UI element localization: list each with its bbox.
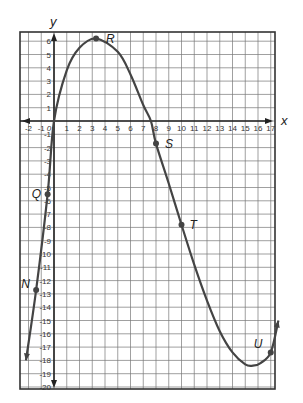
y-axis-arrow-up-icon bbox=[51, 33, 57, 41]
y-tick-label: -15 bbox=[39, 317, 51, 326]
y-tick-label: 6 bbox=[47, 37, 52, 46]
x-tick-label: 6 bbox=[128, 124, 133, 133]
x-tick-label: 17 bbox=[266, 124, 275, 133]
cubic-graph: -2-101234567891011121314151617654321-1-2… bbox=[0, 0, 303, 403]
x-tick-label: 7 bbox=[141, 124, 146, 133]
y-tick-label: 2 bbox=[47, 90, 52, 99]
point-label-u: U bbox=[254, 337, 263, 351]
y-tick-label: -14 bbox=[39, 303, 51, 312]
y-tick-label: -17 bbox=[39, 343, 51, 352]
x-tick-label: 9 bbox=[167, 124, 172, 133]
function-curve bbox=[26, 38, 278, 366]
x-tick-label: 8 bbox=[154, 124, 159, 133]
point-label-r: R bbox=[106, 32, 115, 46]
y-tick-label: -12 bbox=[39, 277, 51, 286]
x-tick-label: 1 bbox=[65, 124, 70, 133]
y-tick-label: -20 bbox=[39, 383, 51, 392]
y-tick-label: 4 bbox=[47, 64, 52, 73]
tick-labels: -2-101234567891011121314151617654321-1-2… bbox=[25, 37, 276, 392]
y-tick-label: -19 bbox=[39, 370, 51, 379]
point-n bbox=[33, 287, 39, 293]
y-tick-label: -9 bbox=[44, 237, 52, 246]
point-q bbox=[45, 191, 51, 197]
grid-lines bbox=[20, 32, 275, 389]
x-tick-label: 5 bbox=[116, 124, 121, 133]
plot-frame bbox=[20, 32, 275, 389]
x-tick-label: 3 bbox=[90, 124, 95, 133]
point-label-s: S bbox=[165, 137, 173, 151]
point-label-n: N bbox=[21, 277, 30, 291]
x-tick-label: 15 bbox=[241, 124, 250, 133]
x-tick-label: 12 bbox=[203, 124, 212, 133]
x-tick-label: 14 bbox=[228, 124, 237, 133]
point-label-t: T bbox=[190, 218, 199, 232]
point-u bbox=[268, 349, 274, 355]
y-tick-label: -11 bbox=[40, 263, 52, 272]
y-tick-label: -18 bbox=[39, 356, 51, 365]
x-tick-label: 11 bbox=[190, 124, 199, 133]
x-tick-label: 2 bbox=[77, 124, 82, 133]
x-tick-label: 13 bbox=[215, 124, 224, 133]
x-axis-title: x bbox=[280, 113, 288, 128]
y-tick-label: 5 bbox=[47, 51, 52, 60]
y-tick-label: 3 bbox=[47, 77, 52, 86]
point-r bbox=[93, 36, 99, 42]
point-s bbox=[153, 141, 159, 147]
y-axis-title: y bbox=[49, 14, 58, 29]
y-tick-label: -16 bbox=[39, 330, 51, 339]
x-tick-label: 10 bbox=[177, 124, 186, 133]
point-label-q: Q bbox=[32, 187, 41, 201]
y-tick-label: -13 bbox=[39, 290, 51, 299]
y-tick-label: 1 bbox=[47, 104, 52, 113]
y-tick-label: -1 bbox=[44, 130, 52, 139]
x-tick-label: -2 bbox=[25, 124, 33, 133]
x-tick-label: 16 bbox=[254, 124, 263, 133]
axes bbox=[20, 33, 273, 388]
x-tick-label: 4 bbox=[103, 124, 108, 133]
point-t bbox=[179, 222, 185, 228]
